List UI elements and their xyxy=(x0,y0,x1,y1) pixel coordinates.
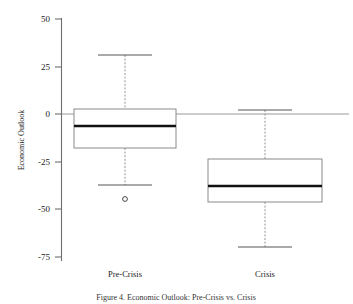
y-tick-label-25: 25 xyxy=(41,62,51,72)
y-tick-label-neg25: -25 xyxy=(38,157,50,167)
y-tick-label-50: 50 xyxy=(41,14,51,24)
y-axis-title: Economic Outlook xyxy=(17,110,26,171)
boxplot-canvas: 50 25 0 -25 -50 -75 Economic Outlook xyxy=(0,0,353,304)
category-label-pre-crisis: Pre-Crisis xyxy=(108,269,142,279)
box-body-pre-crisis xyxy=(74,109,176,148)
category-label-crisis: Crisis xyxy=(255,269,275,279)
figure-caption: Figure 4. Economic Outlook: Pre-Crisis v… xyxy=(96,293,256,302)
y-tick-label-neg75: -75 xyxy=(38,252,50,262)
boxplot-figure: 50 25 0 -25 -50 -75 Economic Outlook xyxy=(0,0,353,304)
figure-background xyxy=(0,0,353,304)
y-tick-label-0: 0 xyxy=(46,109,51,119)
y-tick-label-neg50: -50 xyxy=(38,204,50,214)
box-body-crisis xyxy=(208,159,322,202)
